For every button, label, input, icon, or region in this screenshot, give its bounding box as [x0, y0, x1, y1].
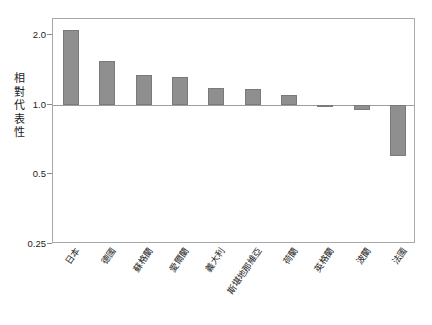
x-axis-tick-label: 英格蘭 [313, 246, 337, 274]
bar [281, 95, 297, 105]
bar [208, 88, 224, 105]
bar [136, 75, 152, 105]
bar [172, 77, 188, 105]
y-axis-tick-label: 2.0 [10, 29, 46, 40]
x-axis-tick-label: 蘇格蘭 [131, 246, 155, 274]
x-axis-tick-label: 日本 [64, 246, 83, 266]
bar [317, 105, 333, 107]
y-axis-tick-label: 0.5 [10, 168, 46, 179]
y-axis-tick-label: 0.25 [10, 238, 46, 249]
y-axis-tick-mark [47, 243, 52, 244]
bar [354, 105, 370, 110]
plot-area [52, 18, 415, 243]
x-axis-tick-label: 法國 [391, 246, 410, 266]
x-axis-tick-label: 波蘭 [354, 246, 373, 266]
x-axis-tick-label: 愛爾蘭 [168, 246, 192, 274]
bar [63, 30, 79, 105]
bar [245, 89, 261, 105]
x-axis-tick-label: 斯堪地那維亞 [225, 246, 264, 296]
y-axis-tick-label: 1.0 [10, 98, 46, 109]
bar [390, 105, 406, 156]
x-axis-tick-label: 德國 [100, 246, 119, 266]
chart-container: 相對代表性 2.01.00.50.25 日本德國蘇格蘭愛爾蘭義大利斯堪地那維亞荷… [0, 0, 432, 325]
x-axis-tick-label: 義大利 [204, 246, 228, 274]
bar [99, 61, 115, 105]
x-axis-tick-label: 荷蘭 [282, 246, 301, 266]
